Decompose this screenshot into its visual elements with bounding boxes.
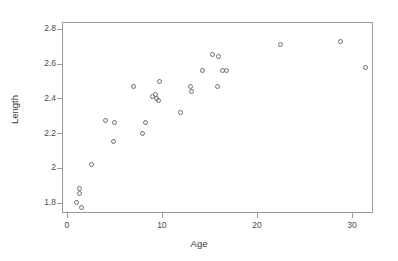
- y-axis-label: Length: [9, 70, 20, 150]
- x-tick-label: 0: [47, 221, 87, 230]
- y-tick-mark: [57, 203, 62, 204]
- x-tick-mark: [162, 213, 163, 218]
- x-tick-mark: [67, 213, 68, 218]
- x-tick-mark: [257, 213, 258, 218]
- y-tick-mark: [57, 29, 62, 30]
- y-tick-label: 2.6: [6, 59, 56, 68]
- plot-area: [62, 22, 373, 213]
- y-tick-label: 1.8: [6, 198, 56, 207]
- y-tick-mark: [57, 64, 62, 65]
- x-tick-label: 30: [332, 221, 372, 230]
- x-tick-label: 20: [237, 221, 277, 230]
- y-tick-mark: [57, 98, 62, 99]
- y-tick-label: 2: [6, 163, 56, 172]
- y-tick-label: 2.8: [6, 24, 56, 33]
- scatter-chart: 1.822.22.42.62.8 0102030 Age Length: [0, 0, 398, 261]
- y-tick-mark: [57, 168, 62, 169]
- x-tick-label: 10: [142, 221, 182, 230]
- x-axis-label: Age: [0, 238, 398, 249]
- x-tick-mark: [352, 213, 353, 218]
- y-tick-mark: [57, 133, 62, 134]
